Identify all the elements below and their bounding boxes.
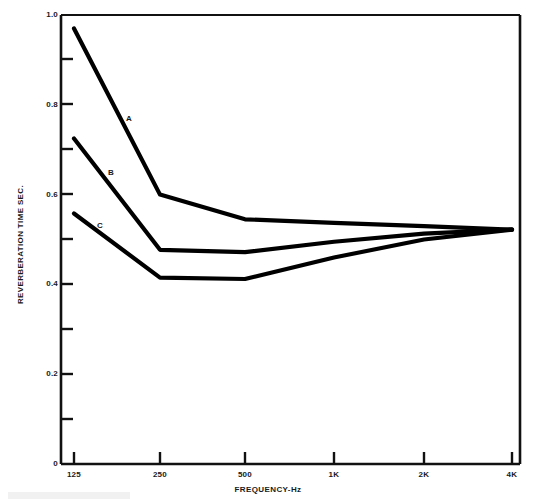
- y-minor-ticks: [61, 59, 73, 419]
- reverberation-time-chart: REVERBERATION TIME SEC. 1.0 0.8 0.6 0.4 …: [0, 0, 536, 503]
- axes-frame: [61, 15, 520, 464]
- scan-artifact: [8, 492, 130, 499]
- series-curve-a: [74, 28, 512, 229]
- data-series-group: [74, 28, 512, 279]
- plot-area: [0, 0, 536, 503]
- x-ticks: [74, 452, 512, 464]
